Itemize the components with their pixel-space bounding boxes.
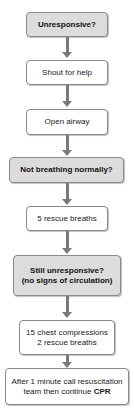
step-open-airway: Open airway	[26, 109, 108, 135]
step-chest-compressions: 15 chest compressions 2 rescue breaths	[19, 320, 115, 355]
step-label: Open airway	[45, 117, 90, 127]
step-label: Shout for help	[42, 68, 92, 78]
arrow-down-icon	[64, 85, 70, 108]
step-label-line2-prefix: team then continue	[23, 387, 93, 396]
step-still-unresponsive: Still unresponsive? (no signs of circula…	[13, 255, 121, 296]
step-label-line1: Still unresponsive?	[30, 266, 104, 276]
step-label-line2: team then continue CPR	[23, 387, 110, 397]
step-label: 5 rescue breaths	[37, 214, 97, 224]
arrow-down-icon	[64, 37, 70, 59]
step-shout-for-help: Shout for help	[26, 60, 108, 85]
arrow-down-icon	[64, 183, 70, 206]
step-rescue-breaths: 5 rescue breaths	[26, 206, 108, 231]
step-label-line2: 2 rescue breaths	[37, 338, 97, 348]
arrow-down-icon	[64, 296, 70, 319]
arrow-down-icon	[64, 135, 70, 157]
step-label: Unresponsive?	[38, 20, 96, 30]
arrow-down-icon	[64, 231, 70, 255]
step-label-line2: (no signs of circulation)	[22, 276, 113, 286]
step-label-line1: After 1 minute call resuscitation	[11, 377, 122, 387]
step-label-line1: 15 chest compressions	[26, 328, 108, 338]
step-call-team-cpr: After 1 minute call resuscitation team t…	[5, 368, 129, 405]
cpr-label: CPR	[94, 387, 111, 396]
step-unresponsive: Unresponsive?	[26, 12, 108, 37]
arrow-down-icon	[64, 355, 70, 368]
step-label: Not breathing normally?	[20, 165, 112, 175]
step-not-breathing: Not breathing normally?	[9, 157, 124, 183]
